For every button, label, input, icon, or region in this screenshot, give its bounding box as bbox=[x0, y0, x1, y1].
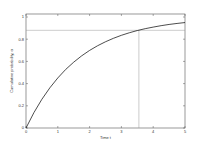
y-tick-label: 0.2 bbox=[18, 103, 24, 108]
x-tick-label: 1 bbox=[57, 129, 60, 134]
y-tick-label: 1 bbox=[22, 14, 25, 19]
y-axis-label: Cumulative probability, α bbox=[9, 49, 14, 93]
x-tick-label: 4 bbox=[152, 129, 155, 134]
cumulative-probability-curve bbox=[26, 23, 185, 128]
x-tick-label: 3 bbox=[120, 129, 123, 134]
y-tick-label: 0.4 bbox=[18, 81, 24, 86]
x-axis-ticks: 012345 bbox=[25, 14, 187, 134]
chart: 00.20.40.60.81 012345 Time t Cumulative … bbox=[0, 0, 197, 143]
x-tick-label: 0 bbox=[25, 129, 28, 134]
y-axis-ticks: 00.20.40.60.81 bbox=[18, 14, 185, 130]
x-tick-label: 2 bbox=[88, 129, 91, 134]
x-axis-label: Time t bbox=[100, 135, 112, 140]
plot-frame bbox=[26, 14, 185, 128]
y-tick-label: 0.8 bbox=[18, 37, 24, 42]
y-tick-label: 0.6 bbox=[18, 59, 24, 64]
x-tick-label: 5 bbox=[184, 129, 187, 134]
